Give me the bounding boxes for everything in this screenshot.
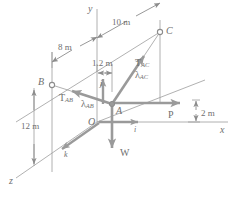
dimension-label-10m: 10 m: [112, 18, 130, 27]
free-body-diagram-canvas: [0, 0, 235, 197]
dimension-label-12m: 12 m: [21, 122, 39, 131]
point-label-b: B: [38, 77, 44, 87]
axis-label-x: x: [220, 125, 224, 135]
point-label-c: C: [166, 26, 173, 36]
dimension-label-2m: 2 m: [201, 109, 215, 118]
lambda-subscript-ab: AB: [86, 102, 94, 109]
force-subscript-ac: AC: [141, 61, 149, 68]
dimension-label-1p2m: 1.2 m: [92, 59, 113, 68]
point-label-a: A: [116, 106, 122, 116]
dim-10m-arrow-right: [136, 3, 160, 16]
unitvec-label-lambda-ab: λAB: [81, 99, 94, 110]
unitvec-label-j: j: [100, 80, 102, 88]
force-label-tab: TAB: [59, 93, 73, 104]
lambda-subscript-ac: AC: [140, 73, 148, 80]
dimension-label-8m: 8 m: [58, 43, 72, 52]
axis-label-y: y: [88, 4, 92, 14]
force-subscript-ab: AB: [65, 96, 73, 103]
force-label-tac: TAC: [135, 58, 149, 69]
unitvec-label-lambda-ac: λAC: [135, 70, 148, 81]
dim-8m-arrow-right: [80, 37, 97, 46]
node-marker-a: [109, 101, 114, 106]
force-label-w: W: [120, 148, 129, 158]
point-label-o: O: [88, 117, 95, 127]
force-label-p: P: [168, 110, 174, 120]
unitvec-label-i: i: [134, 126, 136, 134]
axis-label-z: z: [9, 176, 13, 186]
node-marker-c: [157, 29, 162, 34]
node-marker-b: [49, 82, 54, 87]
unitvec-label-k: k: [64, 151, 68, 159]
